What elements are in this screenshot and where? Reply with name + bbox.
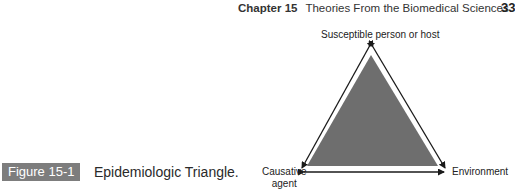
figure-title: Epidemiologic Triangle. bbox=[94, 162, 239, 182]
vertex-label-environment: Environment bbox=[452, 166, 508, 178]
vertex-label-host: Susceptible person or host bbox=[321, 29, 439, 41]
triangle-fill bbox=[307, 55, 438, 166]
vertex-label-agent: Causative agent bbox=[262, 166, 306, 190]
figure-label: Figure 15-1 bbox=[2, 163, 80, 181]
vertex-label-agent-line2: agent bbox=[262, 178, 306, 190]
vertex-label-agent-line1: Causative bbox=[262, 166, 306, 178]
